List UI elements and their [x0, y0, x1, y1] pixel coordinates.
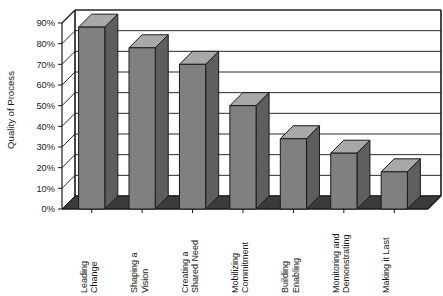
category-label-3-line-0: Mobilizing	[230, 253, 240, 293]
gridline-connector-10	[62, 175, 75, 188]
gridline-connector-20	[62, 155, 75, 168]
bar-5	[331, 140, 370, 209]
category-label-0-line-1: Change	[89, 261, 99, 293]
category-label-6-line-0: Making it Last	[381, 237, 391, 293]
bar-4	[280, 126, 319, 209]
category-label-4-line-1: Enabling	[291, 258, 301, 293]
bar-0	[79, 14, 118, 209]
gridline-connector-80	[62, 31, 75, 44]
y-tick-label-0: 0%	[42, 204, 55, 214]
category-label-4-line-0: Building	[280, 261, 290, 293]
bar-front-face-6	[381, 172, 407, 209]
bar-side-face-1	[155, 35, 168, 209]
category-label-5-line-1: Demonstrating	[341, 234, 351, 293]
category-label-5-line-0: Monitoring and	[331, 233, 341, 293]
gridline-connector-30	[62, 134, 75, 147]
y-tick-label-50: 50%	[36, 101, 55, 111]
bar-front-face-4	[280, 139, 306, 209]
category-label-2-line-1: Shared Need	[190, 240, 200, 293]
bar-side-face-0	[105, 14, 118, 209]
y-tick-label-30: 30%	[36, 142, 55, 152]
gridline-connector-50	[62, 93, 75, 106]
bar-front-face-5	[331, 153, 357, 209]
y-tick-label-80: 80%	[36, 39, 55, 49]
bar-chart: 0%10%20%30%40%50%60%70%80%90% Quality of…	[0, 0, 443, 296]
category-label-1-line-0: Shaping a	[129, 252, 139, 293]
bar-front-face-2	[179, 64, 205, 209]
y-axis-title: Quality of Process	[5, 71, 16, 149]
category-label-2-line-0: Creating a	[180, 251, 190, 293]
y-tick-label-60: 60%	[36, 80, 55, 90]
x-axis-category-labels: LeadingChangeShaping aVisionCreating aSh…	[79, 233, 392, 293]
bar-2	[179, 51, 218, 209]
bar-side-face-2	[206, 51, 219, 209]
y-axis-depth-line	[62, 10, 75, 23]
y-tick-label-90: 90%	[36, 18, 55, 28]
bar-side-face-3	[256, 93, 269, 209]
bar-1	[129, 35, 168, 209]
bar-front-face-0	[79, 27, 105, 209]
category-label-1-line-1: Vision	[140, 269, 150, 293]
bar-3	[230, 93, 269, 209]
y-tick-label-20: 20%	[36, 163, 55, 173]
y-axis-title-text: Quality of Process	[5, 71, 16, 149]
bar-front-face-3	[230, 106, 256, 209]
y-tick-label-70: 70%	[36, 60, 55, 70]
category-label-3-line-1: Commitment	[240, 241, 250, 293]
gridline-connector-70	[62, 51, 75, 64]
chart-canvas: 0%10%20%30%40%50%60%70%80%90% Quality of…	[0, 0, 443, 296]
bar-side-face-4	[307, 126, 320, 209]
y-tick-label-10: 10%	[36, 184, 55, 194]
bar-6	[381, 159, 420, 209]
gridline-connector-40	[62, 113, 75, 126]
gridline-connector-60	[62, 72, 75, 85]
y-axis-tick-labels: 0%10%20%30%40%50%60%70%80%90%	[36, 18, 55, 214]
bar-front-face-1	[129, 48, 155, 209]
y-tick-label-40: 40%	[36, 122, 55, 132]
category-label-0-line-0: Leading	[79, 261, 89, 293]
